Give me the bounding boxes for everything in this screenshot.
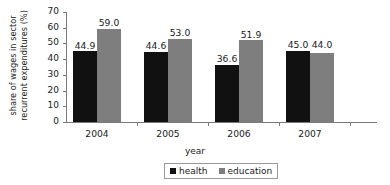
x-category-label-2005: 2005	[148, 128, 188, 139]
y-tick-label-60: 60	[37, 22, 59, 33]
x-tick-4	[350, 122, 351, 126]
y-tick-label-0: 0	[37, 116, 59, 127]
bar-label-education-2004: 59.0	[89, 17, 129, 28]
y-axis-title: share of wages in sector recurrent expen…	[8, 6, 29, 126]
legend-swatch-health-icon	[170, 168, 176, 174]
bar-education-2005[interactable]	[168, 39, 192, 122]
x-category-label-2006: 2006	[219, 128, 259, 139]
bar-health-2006[interactable]	[215, 65, 239, 123]
bar-label-health-2004: 44.9	[65, 40, 105, 51]
legend-label-education: education	[228, 166, 273, 176]
legend: health education	[164, 163, 278, 179]
plot-area: 70 60 50 40 30 20 10 0 44.9 59.0	[66, 12, 377, 122]
bar-health-2007[interactable]	[286, 51, 310, 122]
bar-label-education-2007: 44.0	[302, 39, 342, 50]
y-tick-10: 10	[63, 106, 67, 107]
bar-health-2004[interactable]	[73, 51, 97, 122]
x-axis-title: year	[0, 146, 390, 157]
legend-swatch-education-icon	[219, 168, 225, 174]
x-category-label-2004: 2004	[77, 128, 117, 139]
bar-label-education-2005: 53.0	[160, 27, 200, 38]
x-tick-3	[279, 122, 280, 126]
x-tick-1	[137, 122, 138, 126]
x-tick-2	[208, 122, 209, 126]
y-tick-20: 20	[63, 91, 67, 92]
bar-label-health-2005: 44.6	[136, 40, 176, 51]
bar-chart: share of wages in sector recurrent expen…	[0, 0, 390, 185]
bar-label-health-2006: 36.6	[207, 53, 247, 64]
bar-education-2007[interactable]	[310, 53, 334, 122]
y-tick-label-20: 20	[37, 85, 59, 96]
y-tick-0: 0	[63, 122, 67, 123]
legend-item-health[interactable]: health	[170, 166, 208, 176]
y-tick-label-30: 30	[37, 69, 59, 80]
y-tick-label-40: 40	[37, 53, 59, 64]
y-tick-60: 60	[63, 28, 67, 29]
x-axis-line	[66, 122, 377, 123]
legend-label-health: health	[179, 166, 208, 176]
y-tick-70: 70	[63, 12, 67, 13]
legend-item-education[interactable]: education	[219, 166, 273, 176]
x-category-label-2007: 2007	[290, 128, 330, 139]
y-tick-30: 30	[63, 75, 67, 76]
bar-label-education-2006: 51.9	[231, 29, 271, 40]
bar-health-2005[interactable]	[144, 52, 168, 122]
y-tick-40: 40	[63, 59, 67, 60]
y-tick-label-70: 70	[37, 6, 59, 17]
y-tick-label-10: 10	[37, 100, 59, 111]
y-tick-label-50: 50	[37, 37, 59, 48]
